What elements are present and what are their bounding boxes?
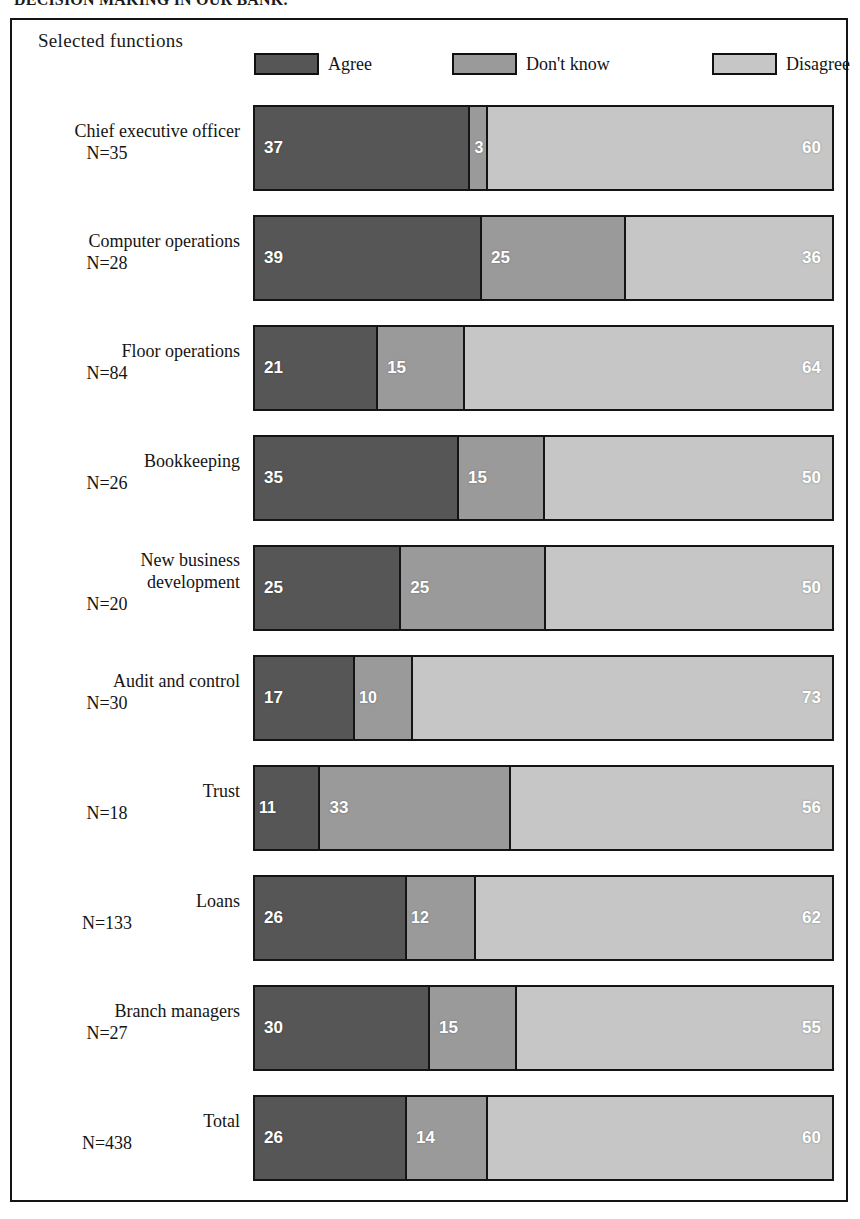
- row-function-name: Loans: [12, 890, 240, 912]
- bar-segment-value: 3: [470, 139, 483, 157]
- chart-row: New businessdevelopmentN=20252550: [12, 532, 846, 642]
- legend-swatch-dont-know: [452, 53, 517, 75]
- bar-segment-value: 10: [355, 689, 377, 707]
- stacked-bar: 171073: [253, 655, 834, 741]
- row-label: Floor operationsN=84: [12, 340, 240, 384]
- bar-segment-value: 26: [255, 908, 283, 928]
- legend-item-disagree: Disagree: [712, 53, 850, 75]
- row-label: Computer operationsN=28: [12, 230, 240, 274]
- stacked-bar: 392536: [253, 215, 834, 301]
- bar-segment-disagree: 60: [486, 107, 832, 189]
- bar-segment-value: 50: [802, 578, 832, 598]
- legend-label-dont-know: Don't know: [526, 54, 610, 75]
- bar-segment-dont-know: 14: [405, 1097, 486, 1179]
- legend-swatch-disagree: [712, 53, 777, 75]
- row-sample-size: N=20: [12, 593, 240, 615]
- bar-segment-agree: 26: [255, 1097, 405, 1179]
- legend-swatch-agree: [254, 53, 319, 75]
- legend-item-dont-know: Don't know: [452, 53, 610, 75]
- bar-segment-value: 62: [802, 908, 832, 928]
- bar-segment-value: 64: [802, 358, 832, 378]
- bar-segment-dont-know: 10: [353, 657, 411, 739]
- row-label: New businessdevelopmentN=20: [12, 549, 240, 615]
- row-sample-size: N=28: [12, 252, 240, 274]
- stacked-bar: 37360: [253, 105, 834, 191]
- bar-segment-value: 15: [459, 468, 487, 488]
- bar-segment-value: 15: [430, 1018, 458, 1038]
- legend-label-agree: Agree: [328, 54, 372, 75]
- row-label: Audit and controlN=30: [12, 670, 240, 714]
- bar-segment-value: 15: [378, 358, 406, 378]
- bar-segment-dont-know: 33: [318, 767, 508, 849]
- row-function-name: Bookkeeping: [12, 450, 240, 472]
- bar-segment-value: 73: [802, 688, 832, 708]
- bar-segment-value: 11: [255, 799, 276, 817]
- row-function-name: New business: [12, 549, 240, 571]
- stacked-bar: 351550: [253, 435, 834, 521]
- chart-row: LoansN=133261262: [12, 862, 846, 972]
- stacked-bar: 211564: [253, 325, 834, 411]
- row-function-name: Computer operations: [12, 230, 240, 252]
- legend-label-disagree: Disagree: [786, 54, 850, 75]
- bar-segment-value: 37: [255, 138, 283, 158]
- bar-segment-agree: 39: [255, 217, 480, 299]
- row-label: LoansN=133: [12, 890, 240, 934]
- chart-row: TrustN=18113356: [12, 752, 846, 862]
- bar-segment-value: 25: [255, 578, 283, 598]
- row-label: BookkeepingN=26: [12, 450, 240, 494]
- bar-segment-dont-know: 12: [405, 877, 474, 959]
- row-sample-size: N=18: [12, 802, 240, 824]
- stacked-bar: 252550: [253, 545, 834, 631]
- bar-segment-value: 21: [255, 358, 283, 378]
- axis-label-selected-functions: Selected functions: [38, 30, 183, 52]
- bar-segment-disagree: 60: [486, 1097, 832, 1179]
- bar-segment-value: 50: [802, 468, 832, 488]
- bar-segment-disagree: 56: [509, 767, 832, 849]
- bar-segment-value: 60: [802, 138, 832, 158]
- bar-segment-disagree: 50: [544, 547, 833, 629]
- bar-segment-value: 35: [255, 468, 283, 488]
- bar-segment-agree: 26: [255, 877, 405, 959]
- row-label: TotalN=438: [12, 1110, 240, 1154]
- row-sample-size: N=133: [12, 912, 240, 934]
- bar-segment-agree: 30: [255, 987, 428, 1069]
- bar-segment-agree: 25: [255, 547, 399, 629]
- bar-segment-dont-know: 15: [376, 327, 463, 409]
- bar-segment-agree: 35: [255, 437, 457, 519]
- bar-segment-disagree: 62: [474, 877, 832, 959]
- chart-row: Audit and controlN=30171073: [12, 642, 846, 752]
- chart-rows: Chief executive officerN=3537360Computer…: [12, 92, 846, 1194]
- chart-row: Branch managersN=27301555: [12, 972, 846, 1082]
- row-function-name-line2: development: [12, 571, 240, 593]
- bar-segment-value: 56: [802, 798, 832, 818]
- bar-segment-value: 17: [255, 688, 283, 708]
- stacked-bar: 113356: [253, 765, 834, 851]
- page-title: DECISION MAKING IN OUR BANK.: [14, 0, 288, 9]
- row-function-name: Chief executive officer: [12, 120, 240, 142]
- row-sample-size: N=26: [12, 472, 240, 494]
- bar-segment-disagree: 64: [463, 327, 832, 409]
- row-label: TrustN=18: [12, 780, 240, 824]
- chart-row: TotalN=438261460: [12, 1082, 846, 1194]
- chart-header: Selected functions Agree Don't know Disa…: [12, 20, 846, 92]
- bar-segment-dont-know: 25: [399, 547, 543, 629]
- bar-segment-agree: 21: [255, 327, 376, 409]
- row-function-name: Floor operations: [12, 340, 240, 362]
- bar-segment-agree: 17: [255, 657, 353, 739]
- chart-frame: Selected functions Agree Don't know Disa…: [10, 18, 848, 1202]
- chart-row: BookkeepingN=26351550: [12, 422, 846, 532]
- bar-segment-value: 60: [802, 1128, 832, 1148]
- stacked-bar: 261460: [253, 1095, 834, 1181]
- row-label: Chief executive officerN=35: [12, 120, 240, 164]
- chart-row: Floor operationsN=84211564: [12, 312, 846, 422]
- bar-segment-dont-know: 15: [457, 437, 544, 519]
- bar-segment-value: 25: [482, 248, 510, 268]
- bar-segment-dont-know: 15: [428, 987, 515, 1069]
- bar-segment-disagree: 50: [543, 437, 832, 519]
- legend-item-agree: Agree: [254, 53, 372, 75]
- bar-segment-agree: 37: [255, 107, 468, 189]
- row-sample-size: N=84: [12, 362, 240, 384]
- row-function-name: Trust: [12, 780, 240, 802]
- row-sample-size: N=438: [12, 1132, 240, 1154]
- bar-segment-value: 55: [802, 1018, 832, 1038]
